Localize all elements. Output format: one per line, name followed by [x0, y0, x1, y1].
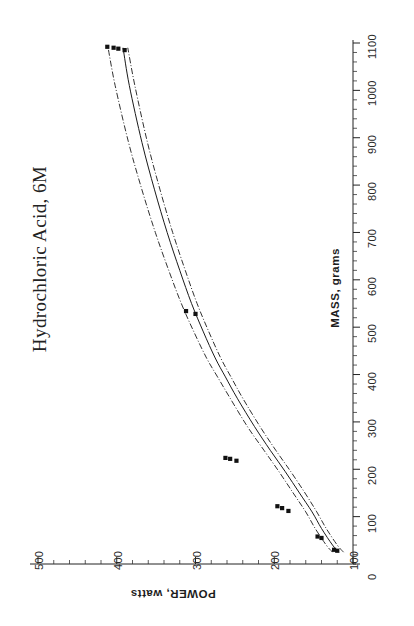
power-axis-title: POWER, watts: [118, 588, 228, 600]
data-point-marker: [280, 506, 284, 510]
chart-root: Hydrochloric Acid, 6M 500400300200100 01…: [0, 0, 414, 626]
power-tick-label: 400: [112, 551, 124, 570]
data-point-marker: [123, 48, 127, 52]
data-point-marker: [112, 46, 116, 50]
mass-tick-label: 700: [366, 229, 378, 248]
power-tick-label: 500: [33, 551, 45, 570]
data-point-marker: [319, 536, 323, 540]
data-point-marker: [275, 504, 279, 508]
plot-area: 500400300200100 010020030040050060070080…: [0, 0, 414, 626]
fit-curves: [108, 48, 343, 552]
mass-tick-label: 800: [366, 182, 378, 201]
mass-tick-label: 600: [366, 277, 378, 296]
power-tick-label: 200: [269, 551, 281, 570]
mass-tick-label: 300: [366, 419, 378, 438]
data-point-marker: [286, 509, 290, 513]
data-point-marker: [184, 309, 188, 313]
data-point-marker: [223, 456, 227, 460]
power-tick-label: 100: [348, 551, 360, 570]
mass-tick-label: 100: [366, 513, 378, 532]
curve-upper-confidence-band: [128, 48, 344, 552]
data-point-marker: [234, 459, 238, 463]
data-point-marker: [116, 47, 120, 51]
plot-canvas: [0, 0, 414, 626]
mass-axis-ticks: [353, 43, 360, 564]
mass-axis-title: MASS, grams: [329, 243, 345, 333]
curve-lower-confidence-band: [108, 48, 332, 552]
data-point-markers: [105, 45, 339, 553]
mass-tick-label: 0: [366, 574, 378, 580]
data-point-marker: [315, 534, 319, 538]
data-point-marker: [228, 457, 232, 461]
mass-tick-label: 500: [366, 324, 378, 343]
mass-tick-label: 1000: [366, 81, 378, 107]
data-point-marker: [193, 312, 197, 316]
mass-tick-label: 200: [366, 466, 378, 485]
power-tick-label: 300: [191, 551, 203, 570]
mass-tick-label: 400: [366, 371, 378, 390]
mass-tick-label: 1100: [366, 34, 378, 59]
axis-lines: [30, 40, 356, 564]
curve-fit: [123, 48, 339, 552]
data-point-marker: [332, 548, 336, 552]
data-point-marker: [105, 45, 109, 49]
mass-tick-label: 900: [366, 134, 378, 153]
